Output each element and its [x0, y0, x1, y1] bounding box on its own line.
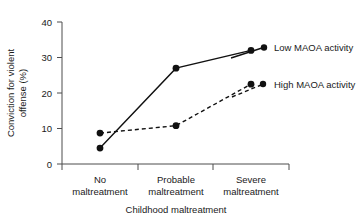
- x-tick-label-0-line2: maltreatment: [72, 186, 128, 197]
- data-point: [97, 130, 104, 137]
- x-tick-label-1-line2: maltreatment: [148, 186, 204, 197]
- legend-label-low-maoa: Low MAOA activity: [274, 42, 353, 53]
- y-tick-label-0: 0: [47, 159, 52, 170]
- legend-marker-high-maoa: [260, 81, 266, 87]
- y-axis-tick-labels: 40 30 20 10 0: [41, 17, 52, 170]
- data-point: [173, 65, 180, 72]
- x-axis-tick-labels: No maltreatment Probable maltreatment Se…: [72, 174, 279, 197]
- x-tick-label-2-line1: Severe: [236, 174, 266, 185]
- legend-label-high-maoa: High MAOA activity: [274, 79, 356, 90]
- x-axis-ticks: [62, 164, 289, 170]
- y-tick-label-40: 40: [41, 17, 52, 28]
- data-point: [173, 122, 180, 129]
- data-point: [248, 81, 255, 88]
- x-tick-label-1-line1: Probable: [157, 174, 195, 185]
- y-axis-title-line2: offense (%): [17, 69, 28, 117]
- x-axis-title: Childhood maltreatment: [126, 204, 227, 215]
- y-tick-label-20: 20: [41, 88, 52, 99]
- y-axis-title-line1: Conviction for violent: [5, 49, 16, 138]
- series-markers-high-maoa: [97, 81, 255, 137]
- y-axis-ticks: [57, 22, 62, 164]
- x-tick-label-0-line1: No: [94, 174, 106, 185]
- y-tick-label-10: 10: [41, 123, 52, 134]
- legend-leader-low-maoa: [231, 48, 262, 58]
- chart-figure: 40 30 20 10 0 Conviction for violent off…: [0, 0, 364, 224]
- data-point: [97, 145, 104, 152]
- line-chart: 40 30 20 10 0 Conviction for violent off…: [0, 0, 364, 224]
- series-markers-low-maoa: [97, 47, 255, 151]
- x-tick-label-2-line2: maltreatment: [223, 186, 279, 197]
- legend-marker-low-maoa: [261, 44, 267, 50]
- y-axis-title: Conviction for violent offense (%): [5, 49, 28, 138]
- y-tick-label-30: 30: [41, 52, 52, 63]
